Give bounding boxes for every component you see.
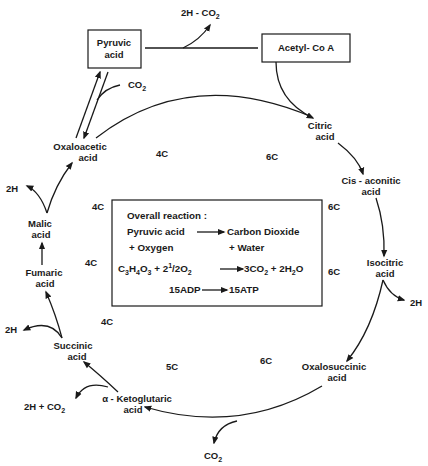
svg-text:acid: acid <box>375 268 394 279</box>
svg-text:acid: acid <box>31 229 50 240</box>
malic-to-oxalo-arrow <box>47 163 72 213</box>
node-malic: Malic acid <box>28 218 52 240</box>
node-cis-aconitic: Cis - aconitic acid <box>341 175 400 197</box>
oxalosuccinic-co2-label: CO2 <box>204 450 222 463</box>
isocitric-2h-arrow <box>383 280 404 300</box>
isocitric-to-oxalosuccinic-arrow <box>347 280 383 361</box>
svg-text:Oxalosuccinic: Oxalosuccinic <box>302 361 366 372</box>
carbon-count: 4C <box>85 257 97 268</box>
svg-text:acid: acid <box>315 131 334 142</box>
citric-to-cis-arrow <box>338 143 363 174</box>
carbon-count: 6C <box>328 201 340 212</box>
succinic-to-fumaric-arrow <box>46 292 62 338</box>
ketoglutaric-to-succinic-arrow <box>84 362 118 392</box>
svg-text:acid: acid <box>123 404 142 415</box>
svg-text:acid: acid <box>35 278 54 289</box>
svg-text:+ Water: + Water <box>229 242 264 253</box>
oxalosuccinic-co2-arrow <box>214 421 237 443</box>
malic-2h-label: 2H <box>6 183 18 194</box>
adp-label: 15ADP <box>169 284 201 295</box>
svg-text:Carbon Dioxide: Carbon Dioxide <box>227 226 300 237</box>
succinic-2h-arrow <box>24 326 62 339</box>
svg-text:+ Oxygen: + Oxygen <box>129 242 173 253</box>
svg-text:Citric: Citric <box>308 120 332 131</box>
svg-text:Pyruvic acid: Pyruvic acid <box>127 226 185 237</box>
svg-text:α - Ketoglutaric: α - Ketoglutaric <box>102 393 172 404</box>
overall-reaction-box: Overall reaction : Pyruvic acid Carbon D… <box>112 200 322 306</box>
svg-text:Malic: Malic <box>28 218 52 229</box>
acetyl-coa-box: Acetyl- Co A <box>262 34 350 62</box>
overall-heading: Overall reaction : <box>127 210 207 221</box>
node-oxaloacetic: Oxaloacetic acid <box>53 141 106 163</box>
top-byproduct-label: 2H - CO2 <box>181 7 220 20</box>
oxalo-to-citric-arc <box>96 95 312 138</box>
svg-text:acid: acid <box>361 186 380 197</box>
ketoglutaric-byproduct-label: 2H + CO2 <box>24 401 65 414</box>
svg-text:Pyruvic: Pyruvic <box>97 37 131 48</box>
pyruvate-co2-label: CO2 <box>128 79 146 92</box>
node-succinic: Succinic acid <box>53 340 92 362</box>
krebs-cycle-diagram: 2H - CO2 Pyruvic acid Acetyl- Co A CO2 O… <box>0 0 428 466</box>
chemical-equation: C3H4O3 + 21/2O2 <box>118 262 192 276</box>
svg-text:acid: acid <box>67 351 86 362</box>
node-isocitric: Isocitric acid <box>367 257 403 279</box>
svg-text:Acetyl- Co A: Acetyl- Co A <box>278 42 334 53</box>
node-fumaric: Fumaric acid <box>26 267 63 289</box>
svg-text:Succinic: Succinic <box>53 340 92 351</box>
cis-to-isocitric-arrow <box>376 198 384 256</box>
svg-text:Oxaloacetic: Oxaloacetic <box>53 141 106 152</box>
carbon-count: 6C <box>328 266 340 277</box>
svg-text:Isocitric: Isocitric <box>367 257 403 268</box>
malic-2h-arrow <box>27 186 47 213</box>
carbon-count: 6C <box>260 355 272 366</box>
svg-text:acid: acid <box>78 152 97 163</box>
node-citric: Citric acid <box>308 120 335 142</box>
carbon-count: 4C <box>101 316 113 327</box>
svg-text:Fumaric: Fumaric <box>26 267 63 278</box>
carbon-count: 4C <box>156 148 168 159</box>
svg-text:acid: acid <box>104 49 123 60</box>
top-byproduct-arrow <box>183 25 210 48</box>
carbon-count: 4C <box>92 201 104 212</box>
svg-text:acid: acid <box>327 372 346 383</box>
svg-text:Cis - aconitic: Cis - aconitic <box>341 175 400 186</box>
pyruvic-acid-box: Pyruvic acid <box>88 30 141 68</box>
carbon-count: 5C <box>166 361 178 372</box>
atp-label: 15ATP <box>229 284 259 295</box>
isocitric-2h-label: 2H <box>410 297 422 308</box>
node-oxalosuccinic: Oxalosuccinic acid <box>302 361 366 383</box>
carbon-count: 6C <box>266 151 278 162</box>
succinic-2h-label: 2H <box>5 324 17 335</box>
